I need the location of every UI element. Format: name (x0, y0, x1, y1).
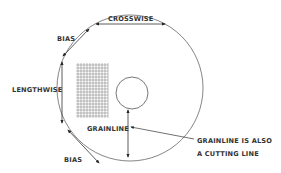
note-line-2: A CUTTING LINE (197, 150, 259, 158)
bias-top-label: BIAS (57, 35, 75, 43)
grainline-label: GRAINLINE (87, 125, 129, 133)
fabric-grain-diagram: CROSSWISE BIAS LENGTHWISE BIAS GRAINLINE… (0, 0, 281, 173)
grainline-pointer (131, 127, 194, 139)
bias-bottom-label: BIAS (64, 156, 82, 164)
crosswise-label: CROSSWISE (108, 15, 154, 23)
inner-circle (116, 77, 148, 109)
note-line-1: GRAINLINE IS ALSO (197, 137, 272, 145)
outer-circle (57, 15, 203, 161)
lengthwise-label: LENGTHWISE (12, 86, 63, 94)
thread-grid (76, 63, 108, 118)
